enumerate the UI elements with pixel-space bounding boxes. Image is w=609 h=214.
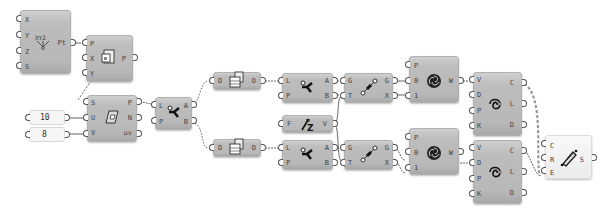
port-label: L xyxy=(286,144,290,152)
flatten-bottom-node[interactable]: D D xyxy=(213,139,261,157)
output-grip[interactable] xyxy=(522,100,527,107)
input-grip[interactable] xyxy=(469,175,474,182)
input-grip[interactable] xyxy=(469,76,474,83)
input-grip[interactable] xyxy=(83,114,88,121)
slider-v-count[interactable]: 8 xyxy=(29,127,65,142)
output-grip[interactable] xyxy=(137,114,142,121)
input-grip[interactable] xyxy=(405,61,410,68)
output-grip[interactable] xyxy=(393,144,398,151)
input-grip[interactable] xyxy=(469,144,474,151)
input-grip[interactable] xyxy=(83,130,88,137)
output-grip[interactable] xyxy=(459,77,464,84)
input-grip[interactable] xyxy=(469,159,474,166)
input-grip[interactable] xyxy=(16,31,21,38)
output-grip[interactable] xyxy=(71,39,76,46)
input-grip[interactable] xyxy=(278,77,283,84)
slider-value: 10 xyxy=(40,113,50,122)
dispatch-top-node[interactable]: L P A B xyxy=(282,73,333,103)
output-grip[interactable] xyxy=(137,130,142,137)
input-grip[interactable] xyxy=(82,54,87,61)
output-grip[interactable] xyxy=(333,159,338,166)
output-grip[interactable] xyxy=(522,168,527,175)
input-grip[interactable] xyxy=(405,148,410,155)
input-grip[interactable] xyxy=(16,47,21,54)
port-label: V xyxy=(477,76,481,84)
weave-bottom-node[interactable]: P 0 1 W xyxy=(409,128,459,175)
input-grip[interactable] xyxy=(278,120,283,127)
input-grip[interactable] xyxy=(340,144,345,151)
output-grip[interactable] xyxy=(137,98,142,105)
flatten-top-node[interactable]: D D xyxy=(213,72,261,90)
output-grip[interactable] xyxy=(133,54,138,61)
output-grip[interactable] xyxy=(261,77,266,84)
input-grip[interactable] xyxy=(469,190,474,197)
port-label: C xyxy=(510,79,514,87)
input-grip[interactable] xyxy=(469,107,474,114)
input-grip[interactable] xyxy=(83,98,88,105)
input-grip[interactable] xyxy=(16,62,21,69)
output-grip[interactable] xyxy=(333,77,338,84)
input-grip[interactable] xyxy=(340,92,345,99)
curve-bottom-node[interactable]: V D P K C L D xyxy=(473,140,522,204)
output-grip[interactable] xyxy=(192,101,197,108)
input-grip[interactable] xyxy=(151,117,156,124)
curve-top-node[interactable]: V D P K C L D xyxy=(473,72,522,136)
input-grip[interactable] xyxy=(25,131,30,138)
list-item-node[interactable]: L P A B xyxy=(155,97,192,130)
input-grip[interactable] xyxy=(469,91,474,98)
output-grip[interactable] xyxy=(393,159,398,166)
input-grip[interactable] xyxy=(405,164,410,171)
output-grip[interactable] xyxy=(522,189,527,196)
output-grip[interactable] xyxy=(192,117,197,124)
input-grip[interactable] xyxy=(278,92,283,99)
input-grip[interactable] xyxy=(151,101,156,108)
output-grip[interactable] xyxy=(459,148,464,155)
loft-node[interactable]: C R E S xyxy=(545,135,592,179)
input-grip[interactable] xyxy=(469,122,474,129)
port-label: V xyxy=(323,120,327,128)
move-bottom-node[interactable]: G T G X xyxy=(344,140,393,170)
input-grip[interactable] xyxy=(209,77,214,84)
surface-divide-node[interactable]: S U V P N uv xyxy=(87,95,137,142)
port-label: P xyxy=(286,92,290,100)
input-grip[interactable] xyxy=(16,15,21,22)
port-label: Y xyxy=(25,32,29,40)
port-label: 1 xyxy=(414,164,418,172)
output-grip[interactable] xyxy=(333,92,338,99)
output-grip[interactable] xyxy=(393,77,398,84)
output-grip[interactable] xyxy=(333,120,338,127)
output-grip[interactable] xyxy=(522,147,527,154)
input-grip[interactable] xyxy=(278,144,283,151)
input-grip[interactable] xyxy=(340,77,345,84)
output-grip[interactable] xyxy=(592,154,597,161)
vector-node[interactable]: F Z V xyxy=(282,115,333,133)
output-grip[interactable] xyxy=(522,121,527,128)
input-grip[interactable] xyxy=(340,159,345,166)
port-label: D xyxy=(510,121,514,129)
input-grip[interactable] xyxy=(278,159,283,166)
output-grip[interactable] xyxy=(333,144,338,151)
input-grip[interactable] xyxy=(405,77,410,84)
output-grip[interactable] xyxy=(393,92,398,99)
input-grip[interactable] xyxy=(541,167,546,174)
output-grip[interactable] xyxy=(65,131,70,138)
port-label: V xyxy=(477,144,481,152)
input-grip[interactable] xyxy=(405,92,410,99)
input-grip[interactable] xyxy=(209,144,214,151)
plane-node[interactable]: P X Y P xyxy=(86,35,133,82)
dispatch-bottom-node[interactable]: L P A B xyxy=(282,140,333,170)
output-grip[interactable] xyxy=(261,144,266,151)
output-grip[interactable] xyxy=(522,79,527,86)
input-grip[interactable] xyxy=(82,69,87,76)
input-grip[interactable] xyxy=(541,154,546,161)
move-top-node[interactable]: G T G X xyxy=(344,73,393,103)
input-grip[interactable] xyxy=(82,39,87,46)
port-label: P xyxy=(159,118,163,126)
slider-u-count[interactable]: 10 xyxy=(29,110,65,125)
input-grip[interactable] xyxy=(541,140,546,147)
weave-top-node[interactable]: P 0 1 W xyxy=(409,56,459,103)
output-grip[interactable] xyxy=(65,114,70,121)
input-grip[interactable] xyxy=(25,114,30,121)
input-grip[interactable] xyxy=(405,133,410,140)
construct-point-node[interactable]: X Y Z S XYZ Pt xyxy=(20,10,71,74)
